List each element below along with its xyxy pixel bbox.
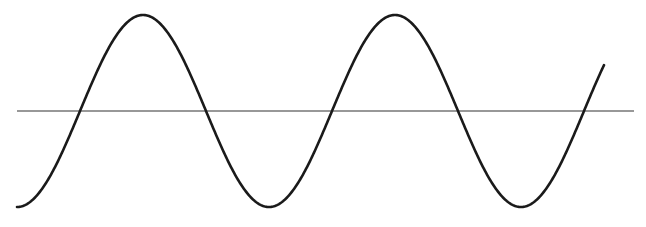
sine-wave-diagram <box>0 0 646 227</box>
